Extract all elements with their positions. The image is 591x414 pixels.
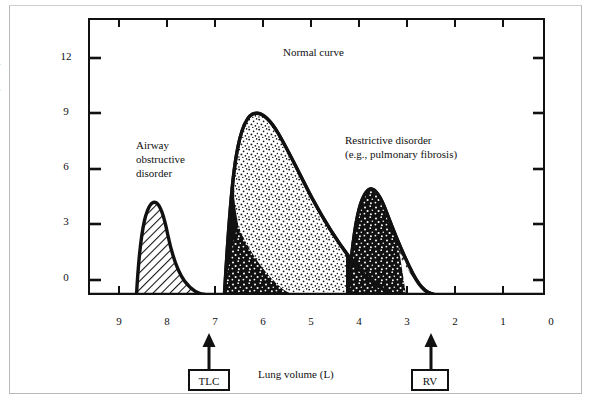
x-axis-title: Lung volume (L) (258, 368, 334, 380)
x-tick-label-9: 9 (109, 315, 129, 327)
y-tick-label-3: 3 (56, 215, 76, 227)
restrictive-disorder-label-line2: (e.g., pulmonary fibrosis) (345, 148, 457, 162)
airway-obstructive-label: Airway obstructive disorder (136, 139, 185, 180)
x-tick-label-0: 0 (541, 315, 561, 327)
x-tick-label-8: 8 (157, 315, 177, 327)
y-tick-label-9: 9 (56, 105, 76, 117)
y-tick-label-0: 0 (56, 271, 76, 283)
y-tick-label-6: 6 (56, 160, 76, 172)
x-tick-label-5: 5 (301, 315, 321, 327)
y-tick-label-12: 12 (56, 50, 76, 62)
x-tick-label-4: 4 (349, 315, 369, 327)
normal-curve-label-line1: Normal curve (283, 46, 344, 60)
airway-obstructive-label-line1: Airway (136, 139, 185, 153)
x-tick-label-3: 3 (397, 315, 417, 327)
airway-obstructive-label-line3: disorder (136, 167, 185, 181)
rv-arrow (422, 332, 440, 372)
x-tick-label-7: 7 (205, 315, 225, 327)
rv-marker-box[interactable]: RV (411, 369, 449, 391)
tlc-marker-box[interactable]: TLC (188, 369, 230, 391)
airway-obstructive-label-line2: obstructive (136, 153, 185, 167)
restrictive-disorder-label: Restrictive disorder (e.g., pulmonary fi… (345, 134, 457, 162)
restrictive-disorder-label-line1: Restrictive disorder (345, 134, 457, 148)
figure-root: Flow (L/sec) 12 9 6 3 0 9 8 7 6 5 4 3 2 … (0, 0, 591, 414)
x-tick-label-1: 1 (493, 315, 513, 327)
x-tick-label-6: 6 (253, 315, 273, 327)
x-tick-label-2: 2 (445, 315, 465, 327)
tlc-arrow (200, 332, 218, 372)
normal-curve-label: Normal curve (283, 46, 344, 60)
